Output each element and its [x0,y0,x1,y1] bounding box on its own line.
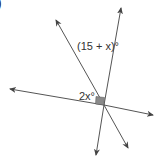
right-angle-marker [96,97,105,106]
angle-label-top: (15 + x)° [77,40,119,52]
angle-diagram: ) (15 + x)° 2x° [0,0,162,163]
line-steep [96,8,121,155]
angle-label-left: 2x° [79,90,95,102]
partial-parenthesis: ) [0,0,2,11]
